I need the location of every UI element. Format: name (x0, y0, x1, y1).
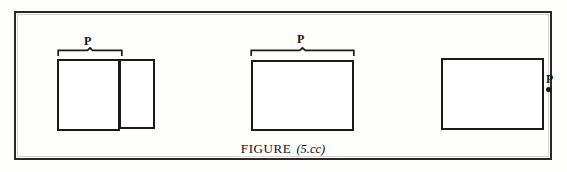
point-marker-dot (546, 87, 551, 92)
brace-one-icon (57, 47, 123, 56)
rectangle-one-right (119, 59, 155, 129)
figure-caption-reference: (5.cc) (296, 142, 325, 156)
figure-caption-word: FIGURE (241, 141, 292, 156)
figure-canvas: P P P (0, 0, 567, 172)
brace-two (250, 47, 355, 56)
diagram-group-one: P (57, 29, 157, 133)
figure-frame: P P P (14, 11, 552, 160)
figure-caption: FIGURE(5.cc) (16, 141, 550, 157)
rectangle-three (441, 58, 544, 130)
diagram-group-three: P (440, 27, 552, 133)
rectangle-one-left (57, 59, 120, 131)
brace-two-icon (250, 47, 355, 56)
brace-label-p-one: P (84, 35, 92, 47)
brace-label-p-two: P (297, 33, 305, 45)
brace-one (57, 47, 123, 56)
rectangle-two (251, 60, 354, 131)
diagram-group-two: P (250, 27, 355, 133)
point-label-p-three: P (546, 73, 554, 85)
